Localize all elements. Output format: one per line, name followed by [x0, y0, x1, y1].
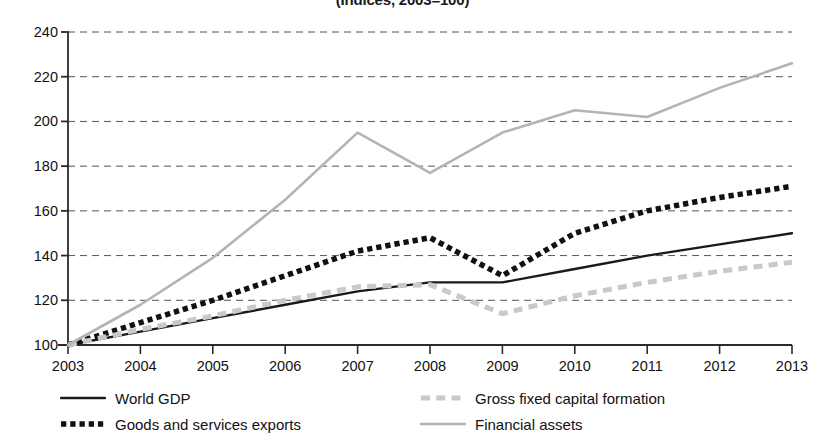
- legend-swatch-financial-assets: [420, 417, 466, 431]
- legend-swatch-world-gdp: [60, 391, 106, 405]
- x-tick-label-2012: 2012: [690, 358, 750, 374]
- legend-label-financial-assets: Financial assets: [475, 417, 583, 432]
- y-tick-label-100: 100: [14, 337, 58, 353]
- legend-entry-world-gdp[interactable]: World GDP: [60, 385, 301, 411]
- x-tick-label-2006: 2006: [255, 358, 315, 374]
- x-tick-label-2010: 2010: [545, 358, 605, 374]
- y-tick-label-140: 140: [14, 248, 58, 264]
- x-tick-label-2007: 2007: [328, 358, 388, 374]
- y-tick-label-180: 180: [14, 158, 58, 174]
- y-tick-label-160: 160: [14, 203, 58, 219]
- chart-legend: World GDPGoods and services exports Gros…: [0, 385, 805, 437]
- legend-entry-goods-and-services-exports[interactable]: Goods and services exports: [60, 411, 301, 437]
- legend-label-goods-and-services-exports: Goods and services exports: [115, 417, 301, 432]
- x-tick-label-2008: 2008: [400, 358, 460, 374]
- x-tick-label-2013: 2013: [762, 358, 813, 374]
- legend-column-left: World GDPGoods and services exports: [60, 385, 301, 437]
- y-tick-label-240: 240: [14, 24, 58, 40]
- x-tick-label-2011: 2011: [617, 358, 677, 374]
- legend-column-right: Gross fixed capital formationFinancial a…: [420, 385, 665, 437]
- x-tick-label-2003: 2003: [38, 358, 98, 374]
- series-line-world-gdp: [68, 233, 792, 345]
- y-tick-label-200: 200: [14, 113, 58, 129]
- legend-entry-gross-fixed-capital-formation[interactable]: Gross fixed capital formation: [420, 385, 665, 411]
- legend-label-world-gdp: World GDP: [115, 391, 191, 406]
- legend-entry-financial-assets[interactable]: Financial assets: [420, 411, 665, 437]
- legend-swatch-goods-and-services-exports: [60, 417, 106, 431]
- legend-label-gross-fixed-capital-formation: Gross fixed capital formation: [475, 391, 665, 406]
- series-line-gross-fixed-capital-formation: [68, 262, 792, 345]
- y-tick-label-120: 120: [14, 292, 58, 308]
- x-tick-label-2004: 2004: [110, 358, 170, 374]
- x-tick-label-2005: 2005: [183, 358, 243, 374]
- x-tick-label-2009: 2009: [472, 358, 532, 374]
- legend-swatch-gross-fixed-capital-formation: [420, 391, 466, 405]
- y-tick-label-220: 220: [14, 69, 58, 85]
